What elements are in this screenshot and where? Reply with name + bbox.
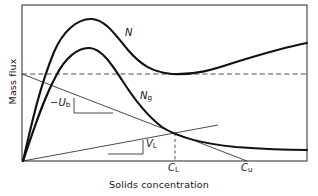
label-slope-overflow: VL: [146, 139, 157, 149]
label-curve-N-text: N: [125, 27, 132, 38]
label-slope-underflow-sub: b: [66, 100, 71, 109]
label-concentration-underflow-main: C: [241, 162, 248, 173]
label-concentration-underflow-sub: u: [248, 165, 253, 174]
label-concentration-limiting-sub: L: [175, 165, 179, 174]
curve-total-flux-N: [23, 19, 307, 161]
mass-flux-plot-figure: N Ng −Ub VL CL Cu Solids concentration M…: [0, 0, 318, 196]
label-slope-overflow-main: V: [146, 138, 153, 149]
label-concentration-underflow: Cu: [241, 163, 253, 173]
overflow-operating-line: [23, 125, 218, 161]
label-slope-underflow: −Ub: [50, 98, 70, 108]
label-concentration-limiting: CL: [168, 163, 179, 173]
underflow-operating-line: [22, 74, 247, 161]
label-curve-Ng-sub: g: [147, 93, 152, 102]
label-concentration-limiting-main: C: [168, 162, 175, 173]
label-slope-underflow-main: −U: [50, 97, 66, 108]
plot-canvas: [0, 0, 318, 196]
plot-frame: [22, 5, 307, 161]
x-axis-title: Solids concentration: [0, 179, 318, 190]
y-axis-title: Mass flux: [7, 42, 18, 122]
label-curve-Ng: Ng: [140, 91, 152, 101]
label-curve-N: N: [125, 28, 132, 38]
label-slope-overflow-sub: L: [153, 141, 157, 150]
